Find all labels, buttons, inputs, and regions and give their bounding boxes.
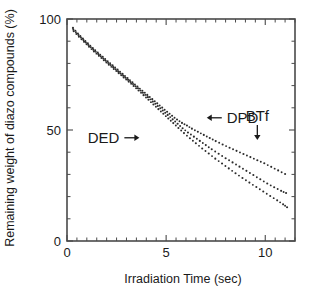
data-point xyxy=(182,127,184,129)
data-point xyxy=(149,98,151,100)
data-point xyxy=(82,39,84,41)
data-point xyxy=(259,178,261,180)
data-point xyxy=(200,132,202,134)
data-point xyxy=(201,147,203,149)
data-point xyxy=(170,120,172,122)
data-point xyxy=(238,175,240,177)
data-point xyxy=(140,90,142,92)
data-point xyxy=(81,38,83,40)
data-point xyxy=(194,129,196,131)
data-point xyxy=(198,145,200,147)
data-point xyxy=(93,50,95,52)
data-point xyxy=(100,57,102,59)
data-point xyxy=(224,165,226,167)
data-point xyxy=(218,142,220,144)
data-point xyxy=(139,88,141,90)
data-point xyxy=(228,167,230,169)
data-point xyxy=(208,152,210,154)
data-point xyxy=(147,99,149,101)
y-axis-title: Remaining weight of diazo compounds (%) xyxy=(3,9,17,247)
data-point xyxy=(252,174,254,176)
data-point xyxy=(205,144,207,146)
data-point xyxy=(211,148,213,150)
data-point xyxy=(246,155,248,157)
data-point xyxy=(245,170,247,172)
data-point xyxy=(145,97,147,99)
data-point xyxy=(269,195,271,197)
data-point xyxy=(209,137,211,139)
data-point xyxy=(279,201,281,203)
data-point xyxy=(176,119,178,121)
data-point xyxy=(134,83,136,85)
data-point xyxy=(141,90,143,92)
data-point xyxy=(203,134,205,136)
data-point xyxy=(270,184,272,186)
axis-tick-labels: 0510050100 xyxy=(39,12,272,260)
data-point xyxy=(205,150,207,152)
data-point xyxy=(177,123,179,125)
data-point xyxy=(267,164,269,166)
data-point xyxy=(80,37,82,39)
data-point xyxy=(214,158,216,160)
data-point xyxy=(130,81,132,83)
data-point xyxy=(120,73,122,75)
x-tick-label: 0 xyxy=(63,245,70,260)
data-point xyxy=(277,188,279,190)
data-point xyxy=(255,186,257,188)
data-point xyxy=(154,100,156,102)
data-point xyxy=(87,44,89,46)
data-point xyxy=(179,125,181,127)
data-point xyxy=(218,160,220,162)
data-point xyxy=(259,188,261,190)
data-point xyxy=(172,122,174,124)
data-point xyxy=(273,197,275,199)
data-point xyxy=(221,155,223,157)
data-point xyxy=(169,113,171,115)
data-point xyxy=(193,136,195,138)
data-point xyxy=(276,199,278,201)
data-point xyxy=(157,105,159,107)
data-point xyxy=(120,74,122,76)
data-point xyxy=(122,75,124,77)
data-point xyxy=(215,140,217,142)
data-point xyxy=(211,155,213,157)
data-point xyxy=(88,46,90,48)
data-point xyxy=(135,85,137,87)
data-point xyxy=(115,68,117,70)
data-point xyxy=(140,92,142,94)
data-point xyxy=(228,159,230,161)
data-point xyxy=(177,127,179,129)
data-point xyxy=(146,94,148,96)
chart-figure: 0510050100 DPDDEDBTf Irradiation Time (s… xyxy=(0,0,314,292)
data-point xyxy=(174,117,176,119)
data-point xyxy=(280,190,282,192)
data-point xyxy=(218,153,220,155)
data-point xyxy=(137,87,139,89)
data-point xyxy=(171,115,173,117)
data-point xyxy=(232,148,234,150)
data-point xyxy=(238,166,240,168)
data-point xyxy=(270,166,272,168)
data-point xyxy=(273,186,275,188)
data-point xyxy=(206,135,208,137)
data-point xyxy=(260,161,262,163)
data-point xyxy=(202,142,204,144)
data-point xyxy=(225,157,227,159)
data-point xyxy=(195,142,197,144)
data-point xyxy=(232,161,234,163)
data-point xyxy=(186,135,188,137)
data-point xyxy=(135,87,137,89)
data-point xyxy=(147,96,149,98)
data-point xyxy=(166,111,168,113)
data-point xyxy=(159,107,161,109)
x-tick-label: 5 xyxy=(163,245,170,260)
data-point xyxy=(253,158,255,160)
data-point xyxy=(174,121,176,123)
data-point xyxy=(105,60,107,62)
data-point xyxy=(245,179,247,181)
data-point xyxy=(151,98,153,100)
data-point xyxy=(221,162,223,164)
y-tick-label: 100 xyxy=(39,12,61,27)
data-point xyxy=(142,92,144,94)
data-point xyxy=(186,125,188,127)
